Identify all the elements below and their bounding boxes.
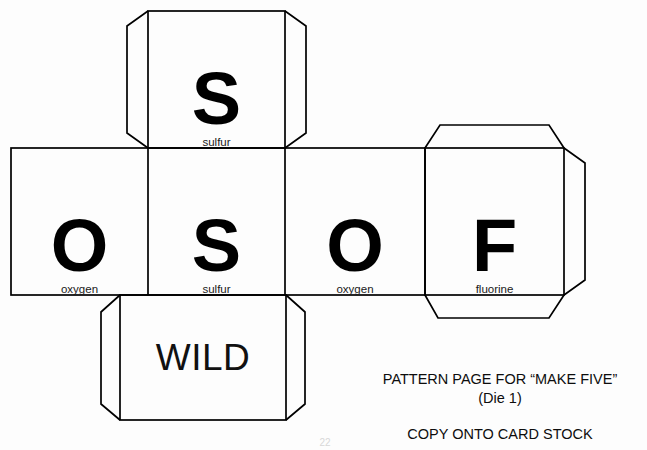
card-stock-text: COPY ONTO CARD STOCK: [355, 425, 645, 444]
caption-title: PATTERN PAGE FOR “MAKE FIVE”: [355, 370, 645, 389]
card-stock-instruction: COPY ONTO CARD STOCK: [355, 425, 645, 444]
flap-top-right: [285, 11, 306, 148]
panel-fluorine: [425, 148, 564, 295]
panel-top-sulfur: [148, 11, 285, 148]
flap-top-left: [127, 11, 148, 148]
flap-fluorine-bottom: [425, 295, 564, 318]
pattern-caption: PATTERN PAGE FOR “MAKE FIVE” (Die 1): [355, 370, 645, 407]
panel-row-middle: [11, 148, 425, 295]
flap-wild-left: [101, 295, 120, 420]
panel-bottom-wild: [120, 295, 286, 420]
flap-fluorine-right: [564, 148, 585, 295]
page-number-mark: 22: [310, 437, 340, 448]
caption-die-number: (Die 1): [355, 389, 645, 408]
pattern-sheet: S sulfur O oxygen S sulfur O oxygen F fl…: [0, 0, 647, 450]
flap-wild-right: [286, 295, 305, 420]
flap-fluorine-top: [425, 125, 564, 148]
